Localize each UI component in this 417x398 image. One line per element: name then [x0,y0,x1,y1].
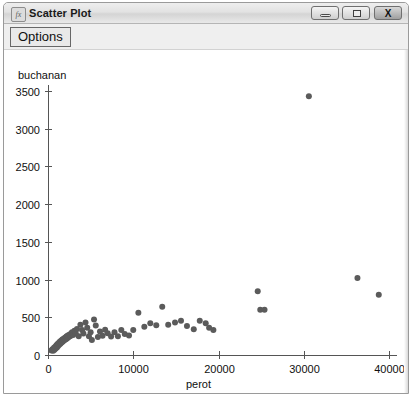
y-tick-label: 3000 [16,124,40,136]
data-point [100,333,106,339]
x-tick-label: 40000 [374,363,405,375]
minimize-icon [320,14,331,17]
data-point [172,320,178,326]
data-point [255,288,261,294]
data-point [88,329,94,335]
data-point [153,322,159,328]
close-button[interactable]: X [374,6,402,20]
y-tick-label: 1500 [16,237,40,249]
options-button[interactable]: Options [10,27,71,47]
x-tick-label: 20000 [204,363,235,375]
panel-right-edge [404,50,408,393]
chart-labels: 0500100015002000250030003500010000200003… [16,69,405,390]
scatter-plot-window: fx Scatter Plot X Options 05001000150020… [3,2,409,394]
y-tick-label: 1000 [16,275,40,287]
close-icon: X [375,8,401,19]
data-point [141,324,147,330]
data-point [197,318,203,324]
data-point [147,320,153,326]
data-point [376,292,382,298]
x-tick-label: 0 [45,363,51,375]
data-point [165,322,171,328]
data-point [306,93,312,99]
plot-panel: 0500100015002000250030003500010000200003… [4,50,408,393]
data-point [126,332,132,338]
y-tick-label: 500 [22,312,40,324]
chart-app-icon: fx [11,7,26,22]
chart-axes [45,85,397,359]
data-point [93,323,99,329]
data-point [130,327,136,333]
data-point [80,331,86,337]
y-tick-label: 0 [34,350,40,362]
data-point [191,326,197,332]
minimize-button[interactable] [311,6,339,20]
y-tick-label: 3500 [16,86,40,98]
y-axis-title: buchanan [18,69,66,81]
x-tick-label: 30000 [289,363,320,375]
data-point [184,323,190,329]
data-point [178,318,184,324]
window-titlebar: fx Scatter Plot X [4,3,408,24]
y-tick-label: 2000 [16,199,40,211]
data-point [354,275,360,281]
data-point [89,337,95,343]
data-point [135,310,141,316]
x-axis-title: perot [186,378,211,390]
x-tick-label: 10000 [118,363,149,375]
data-point [77,322,83,328]
maximize-icon [353,10,361,17]
toolbar: Options [4,24,408,50]
chart-points [48,93,381,354]
window-title: Scatter Plot [29,6,91,21]
maximize-button[interactable] [342,6,370,20]
y-tick-label: 2500 [16,161,40,173]
data-point [115,333,121,339]
data-point [210,327,216,333]
data-point [91,317,97,323]
data-point [159,304,165,310]
data-point [83,320,89,326]
scatter-chart: 0500100015002000250030003500010000200003… [4,50,409,394]
data-point [262,307,268,313]
